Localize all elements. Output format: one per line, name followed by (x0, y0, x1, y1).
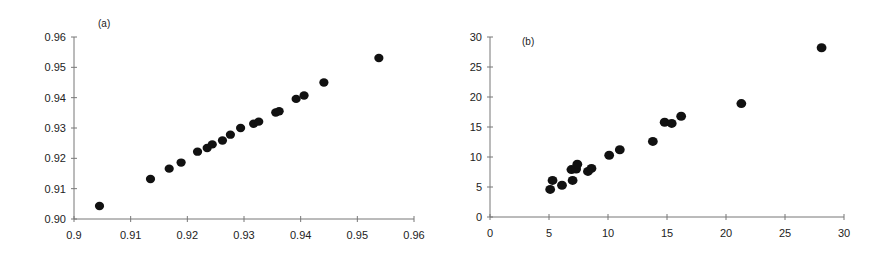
panel-label: (a) (98, 18, 110, 29)
y-tick-label: 25 (470, 61, 482, 73)
data-point-marker (165, 164, 174, 172)
y-tick-label: 0.92 (45, 152, 66, 164)
y-tick-label: 0.95 (45, 61, 66, 73)
y-tick-label: 30 (470, 31, 482, 43)
data-point-marker (648, 137, 658, 146)
data-point-marker (208, 140, 217, 148)
x-tick-label: 30 (838, 227, 850, 239)
data-point-marker (177, 158, 186, 166)
data-point-marker (817, 43, 827, 52)
data-point-marker (254, 117, 263, 125)
chart-a-plot-area: 0.900.910.920.930.940.950.960.90.910.920… (0, 0, 447, 263)
data-point-marker (557, 181, 567, 190)
y-tick-label: 5 (476, 181, 482, 193)
x-tick-label: 0.91 (120, 229, 141, 241)
data-point-marker (374, 54, 383, 62)
axes: 051015202530051015202530 (470, 31, 850, 239)
data-point-marker (545, 185, 555, 194)
data-point-marker (548, 176, 558, 185)
data-point-marker (95, 202, 104, 210)
y-tick-label: 0 (476, 211, 482, 223)
data-point-marker (667, 119, 677, 128)
panel-label: (b) (522, 36, 534, 47)
data-point-marker (146, 175, 155, 183)
y-tick-label: 0.94 (45, 92, 66, 104)
data-point-marker (568, 176, 578, 185)
x-tick-label: 25 (779, 227, 791, 239)
data-point-marker (736, 99, 746, 108)
x-tick-label: 0.95 (347, 229, 368, 241)
y-tick-label: 15 (470, 121, 482, 133)
data-point-marker (275, 107, 284, 115)
data-point-marker (292, 95, 301, 103)
data-point-marker (572, 160, 582, 169)
chart-b-plot-area: 051015202530051015202530(b) (447, 0, 894, 263)
x-tick-label: 0.92 (177, 229, 198, 241)
data-point-marker (319, 78, 328, 86)
x-tick-label: 0.94 (290, 229, 311, 241)
scatter-chart-b: 051015202530051015202530(b) (447, 0, 894, 263)
data-point-marker (676, 112, 686, 121)
data-point-marker (226, 130, 235, 138)
y-tick-label: 0.91 (45, 183, 66, 195)
y-tick-label: 0.93 (45, 122, 66, 134)
data-point-marker (299, 91, 308, 99)
data-point-marker (587, 164, 597, 173)
x-tick-label: 20 (720, 227, 732, 239)
data-point-marker (615, 145, 625, 154)
x-tick-label: 10 (602, 227, 614, 239)
x-tick-label: 15 (661, 227, 673, 239)
x-tick-label: 0.96 (403, 229, 424, 241)
y-tick-label: 0.90 (45, 213, 66, 225)
data-point-marker (218, 136, 227, 144)
x-tick-label: 5 (546, 227, 552, 239)
x-tick-label: 0.93 (233, 229, 254, 241)
x-tick-label: 0 (487, 227, 493, 239)
scatter-chart-a: 0.900.910.920.930.940.950.960.90.910.920… (0, 0, 447, 263)
data-point-marker (193, 147, 202, 155)
y-tick-label: 20 (470, 91, 482, 103)
x-tick-label: 0.9 (66, 229, 81, 241)
data-points (545, 43, 826, 194)
data-point-marker (604, 151, 614, 160)
y-tick-label: 0.96 (45, 31, 66, 43)
data-points (95, 54, 384, 210)
data-point-marker (236, 124, 245, 132)
y-tick-label: 10 (470, 151, 482, 163)
